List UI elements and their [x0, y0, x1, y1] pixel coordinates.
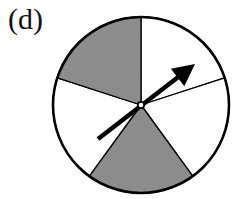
spinner [0, 0, 232, 199]
spinner-hub [138, 102, 144, 108]
